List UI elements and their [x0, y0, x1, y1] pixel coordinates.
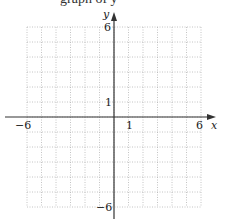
coordinate-plane: x y −6 1 6 6 1 −6 — [0, 0, 225, 223]
y-axis-label: y — [102, 8, 110, 21]
y-axis-arrow-icon — [111, 12, 117, 21]
x-tick-label-6: 6 — [196, 119, 203, 132]
x-axis-label: x — [211, 119, 218, 132]
x-tick-label-1: 1 — [126, 119, 133, 132]
y-tick-label-6: 6 — [104, 21, 111, 34]
x-tick-label-neg6: −6 — [15, 119, 31, 132]
y-tick-label-neg6: −6 — [96, 201, 112, 214]
y-tick-label-1: 1 — [105, 96, 112, 109]
